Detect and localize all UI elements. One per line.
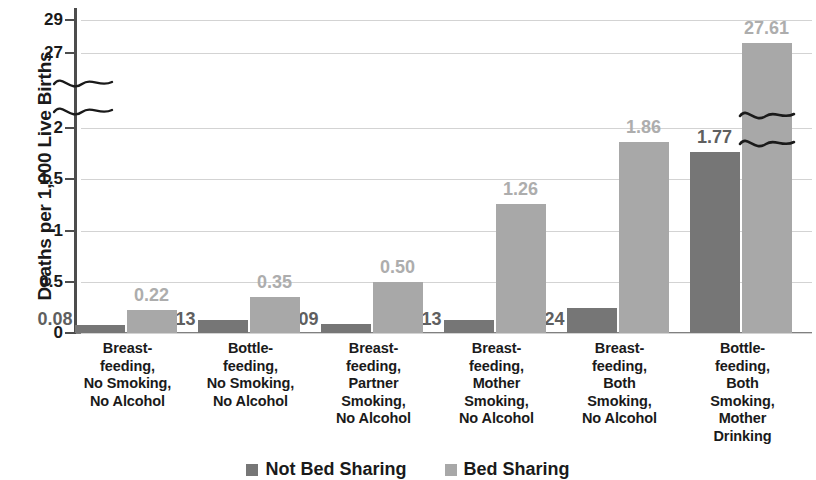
category-label-line: Mother bbox=[435, 375, 558, 393]
category-label-line: Smoking, bbox=[312, 393, 435, 411]
category-label-line: feeding, bbox=[681, 358, 804, 376]
legend-item[interactable]: Bed Sharing bbox=[445, 459, 570, 480]
bar bbox=[198, 320, 248, 333]
category-label-line: Smoking, bbox=[681, 393, 804, 411]
category-label-line: Partner bbox=[312, 375, 435, 393]
gridline bbox=[81, 333, 812, 334]
bar bbox=[496, 204, 546, 333]
x-axis-category-label: Breast-feeding,BothSmoking,No Alcohol bbox=[558, 340, 681, 428]
bar bbox=[321, 324, 371, 333]
gridline bbox=[81, 20, 812, 21]
bar bbox=[619, 142, 669, 333]
axis-break-lower-icon bbox=[52, 100, 114, 122]
y-tick-mark bbox=[65, 281, 76, 283]
category-label-line: Smoking, bbox=[558, 393, 681, 411]
category-label-line: Breast- bbox=[312, 340, 435, 358]
plot-area: 00.511.522729 0.080.130.090.130.241.770.… bbox=[74, 8, 812, 334]
category-label-line: No Alcohol bbox=[435, 410, 558, 428]
category-label-line: Drinking bbox=[681, 428, 804, 446]
category-label-line: feeding, bbox=[435, 358, 558, 376]
legend-swatch-icon bbox=[246, 464, 258, 476]
gridline bbox=[81, 53, 812, 54]
category-label-line: Both bbox=[681, 375, 804, 393]
category-label-line: No Alcohol bbox=[66, 393, 189, 411]
bar bbox=[250, 297, 300, 333]
bar-value-label: 1.77 bbox=[697, 127, 732, 148]
category-label-line: No Smoking, bbox=[66, 375, 189, 393]
category-label-line: feeding, bbox=[558, 358, 681, 376]
bar bbox=[690, 152, 740, 333]
category-label-line: feeding, bbox=[312, 358, 435, 376]
x-axis-category-label: Breast-feeding,MotherSmoking,No Alcohol bbox=[435, 340, 558, 428]
category-label-line: No Smoking, bbox=[189, 375, 312, 393]
bar bbox=[127, 310, 177, 333]
legend-item[interactable]: Not Bed Sharing bbox=[246, 459, 406, 480]
y-tick-label: 27 bbox=[44, 43, 63, 63]
legend-label: Bed Sharing bbox=[464, 459, 570, 480]
category-label-line: No Alcohol bbox=[189, 393, 312, 411]
category-label-line: No Alcohol bbox=[312, 410, 435, 428]
category-label-line: Breast- bbox=[66, 340, 189, 358]
category-label-line: Bottle- bbox=[189, 340, 312, 358]
category-label-line: Both bbox=[558, 375, 681, 393]
category-label-line: Breast- bbox=[435, 340, 558, 358]
bar-value-label: 1.26 bbox=[503, 179, 538, 200]
y-tick-label: 1 bbox=[54, 221, 63, 241]
x-axis-category-label: Breast-feeding,No Smoking,No Alcohol bbox=[66, 340, 189, 410]
bar-value-label: 0.50 bbox=[380, 257, 415, 278]
y-tick-mark bbox=[65, 230, 76, 232]
y-tick-mark bbox=[65, 178, 76, 180]
category-label-line: Breast- bbox=[558, 340, 681, 358]
category-label-line: feeding, bbox=[66, 358, 189, 376]
y-tick-mark bbox=[65, 19, 76, 21]
bar bbox=[75, 325, 125, 333]
x-axis-category-labels: Breast-feeding,No Smoking,No AlcoholBott… bbox=[74, 340, 812, 450]
chart-legend: Not Bed SharingBed Sharing bbox=[0, 459, 816, 480]
bar bbox=[444, 320, 494, 333]
category-label-line: No Alcohol bbox=[558, 410, 681, 428]
bar-value-label: 27.61 bbox=[744, 18, 789, 39]
bar bbox=[742, 43, 792, 333]
y-tick-mark bbox=[65, 127, 76, 129]
x-axis-category-label: Bottle-feeding,No Smoking,No Alcohol bbox=[189, 340, 312, 410]
category-label-line: Mother bbox=[681, 410, 804, 428]
y-axis-line bbox=[74, 8, 77, 334]
bar-value-label: 0.08 bbox=[37, 309, 72, 330]
axis-break-upper-icon bbox=[52, 72, 114, 94]
category-label-line: Bottle- bbox=[681, 340, 804, 358]
category-label-line: Smoking, bbox=[435, 393, 558, 411]
y-tick-label: 1.5 bbox=[39, 169, 63, 189]
bar-value-label: 0.35 bbox=[257, 272, 292, 293]
bar-value-label: 1.86 bbox=[626, 117, 661, 138]
category-label-line: feeding, bbox=[189, 358, 312, 376]
legend-label: Not Bed Sharing bbox=[265, 459, 406, 480]
x-axis-category-label: Bottle-feeding,BothSmoking,MotherDrinkin… bbox=[681, 340, 804, 445]
bar-value-label: 0.22 bbox=[134, 285, 169, 306]
bar bbox=[373, 282, 423, 333]
legend-swatch-icon bbox=[445, 464, 457, 476]
y-tick-label: 0.5 bbox=[39, 272, 63, 292]
bar bbox=[567, 308, 617, 333]
x-axis-category-label: Breast-feeding,PartnerSmoking,No Alcohol bbox=[312, 340, 435, 428]
y-tick-label: 29 bbox=[44, 10, 63, 30]
y-tick-mark bbox=[65, 52, 76, 54]
